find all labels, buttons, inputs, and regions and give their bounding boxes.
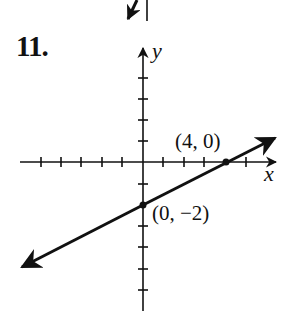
y-axis-label: y	[152, 40, 162, 62]
point-label-y-intercept: (0, −2)	[152, 203, 209, 224]
x-axis-label: x	[264, 163, 274, 185]
previous-figure-fragment	[128, 0, 147, 21]
point-x-intercept	[223, 159, 230, 166]
problem-number: 11.	[16, 32, 48, 61]
point-y-intercept	[140, 202, 147, 209]
point-label-x-intercept: (4, 0)	[175, 131, 221, 152]
graph-figure: 11. y x (4, 0) (0, −2)	[0, 0, 296, 322]
graphed-line	[22, 138, 275, 267]
y-axis	[138, 48, 148, 311]
